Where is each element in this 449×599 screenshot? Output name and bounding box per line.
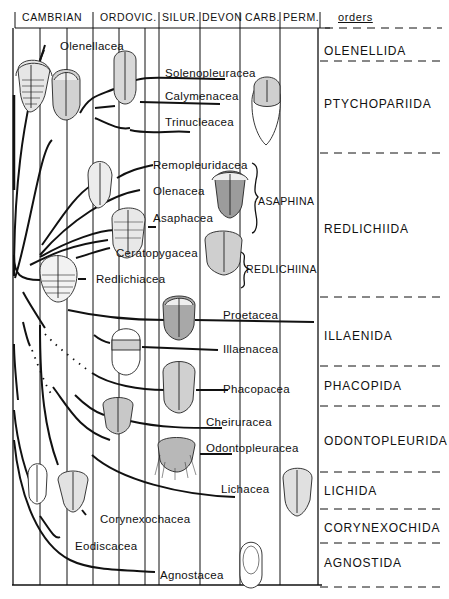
order-ptychopariida: PTYCHOPARIIDA	[324, 98, 432, 110]
superfamily-proetacea: Proetacea	[223, 310, 278, 322]
superfamily-cheiruracea: Cheiruracea	[206, 417, 272, 429]
superfamily-solenopleuracea: Solenopleuracea	[165, 68, 256, 80]
period-ordovician: ORDOVIC.	[100, 12, 157, 23]
trilobite-redlichiid	[205, 231, 242, 275]
period-silurian: SILUR.	[162, 12, 199, 23]
superfamily-redlichiacea: Redlichiacea	[96, 274, 165, 286]
order-odontopleurida: ODONTOPLEURIDA	[324, 435, 448, 447]
superfamily-calymenacea: Calymenacea	[165, 91, 239, 103]
order-corynexochida: CORYNEXOCHIDA	[324, 522, 440, 534]
suborder-asaphina: ASAPHINA	[258, 196, 314, 207]
trilobite-corynexochid	[58, 471, 88, 512]
superfamily-phacopacea: Phacopacea	[223, 384, 290, 396]
superfamily-ceratopygacea: Ceratopygacea	[116, 248, 198, 260]
order-agnostida: AGNOSTIDA	[324, 557, 402, 569]
superfamily-olenacea: Olenacea	[153, 186, 205, 198]
trilobite-olenellus	[16, 60, 52, 112]
suborder-redlichiina: REDLICHIINA	[246, 264, 317, 275]
superfamily-trinucleacea: Trinucleacea	[165, 117, 234, 129]
period-carboniferous: CARB.	[245, 12, 280, 23]
trilobite-olenid	[212, 171, 248, 218]
trilobite-redlichia	[40, 255, 77, 302]
trilobite-solenopleurid	[114, 51, 136, 104]
superfamily-odontopleuracea: Odontopleuracea	[206, 443, 299, 455]
period-cambrian: CAMBRIAN	[22, 12, 82, 23]
trilobite-trinucleid	[252, 77, 280, 145]
trilobite-proetid	[163, 296, 195, 340]
trilobite-cheirurid	[103, 398, 133, 435]
period-permian: PERM.	[283, 12, 319, 23]
order-phacopida: PHACOPIDA	[324, 380, 402, 392]
superfamily-eodiscacea: Eodiscacea	[75, 541, 137, 553]
superfamily-corynexochacea: Corynexochacea	[100, 514, 191, 526]
orders-column-header: orders	[338, 12, 373, 23]
order-illaenida: ILLAENIDA	[324, 330, 393, 342]
order-dividers	[320, 28, 442, 587]
trilobite-eodiscid	[28, 464, 47, 504]
trilobite-illaenid	[112, 329, 140, 375]
trilobite-agnostid	[240, 542, 262, 588]
order-olenellida: OLENELLIDA	[324, 45, 406, 57]
superfamily-illaenacea: Illaenacea	[223, 344, 278, 356]
superfamily-agnostacea: Agnostacea	[160, 570, 224, 582]
superfamily-remopleuridacea: Remopleuridacea	[153, 160, 248, 172]
trilobite-ptychoparid	[52, 70, 80, 121]
superfamily-lichacea: Lichacea	[221, 484, 269, 496]
period-devonian: DEVON	[202, 12, 242, 23]
order-lichida: LICHIDA	[324, 485, 377, 497]
trilobite-odontopleurid	[155, 438, 196, 481]
order-redlichiida: REDLICHIIDA	[324, 223, 409, 235]
superfamily-olenellacea: Olenellacea	[60, 41, 124, 53]
superfamily-asaphacea: Asaphacea	[153, 213, 213, 225]
trilobite-phacopid	[163, 362, 195, 414]
trilobite-lichid	[283, 468, 312, 516]
